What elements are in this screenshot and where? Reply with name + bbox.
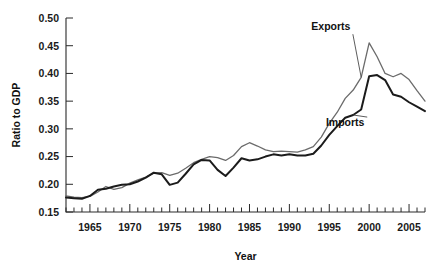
- data-series: [66, 43, 425, 199]
- x-tick-label: 1965: [78, 221, 102, 233]
- series-label-exports: Exports: [311, 20, 350, 32]
- y-axis-title: Ratio to GDP: [10, 83, 22, 148]
- x-tick-label: 1990: [278, 221, 302, 233]
- x-tick-label: 2000: [357, 221, 381, 233]
- y-tick-label: 0.45: [39, 40, 60, 52]
- y-axis-ticks: 0.150.200.250.300.350.400.450.50: [39, 12, 73, 218]
- series-line-imports: [66, 75, 425, 199]
- x-tick-label: 1995: [318, 221, 342, 233]
- x-tick-label: 1975: [158, 221, 182, 233]
- x-axis-title: Year: [234, 250, 256, 262]
- y-tick-label: 0.15: [39, 206, 60, 218]
- x-tick-label: 1970: [118, 221, 142, 233]
- x-tick-label: 2005: [397, 221, 421, 233]
- leader-line-exports: [353, 34, 361, 77]
- y-tick-label: 0.40: [39, 67, 60, 79]
- chart-figure: 0.150.200.250.300.350.400.450.50 1965197…: [0, 0, 446, 274]
- y-tick-label: 0.25: [39, 150, 60, 162]
- x-axis-ticks: 196519701975198019851990199520002005: [66, 204, 425, 233]
- series-label-imports: Imports: [326, 116, 365, 128]
- y-tick-label: 0.50: [39, 12, 60, 24]
- series-line-exports: [66, 43, 425, 198]
- y-tick-label: 0.30: [39, 123, 60, 135]
- x-tick-label: 1985: [238, 221, 262, 233]
- y-tick-label: 0.35: [39, 95, 60, 107]
- line-chart: 0.150.200.250.300.350.400.450.50 1965197…: [0, 0, 446, 274]
- x-tick-label: 1980: [198, 221, 222, 233]
- y-tick-label: 0.20: [39, 178, 60, 190]
